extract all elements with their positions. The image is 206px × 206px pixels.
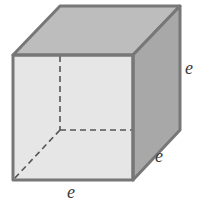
- label-depth-edge: e: [155, 147, 163, 165]
- label-bottom-edge: e: [67, 183, 75, 201]
- label-vertical-edge: e: [185, 59, 193, 77]
- cube-diagram: [0, 0, 206, 206]
